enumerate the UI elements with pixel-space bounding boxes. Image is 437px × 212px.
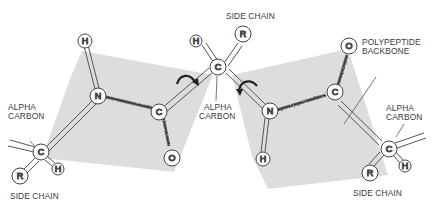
atom-n-right: N: [262, 103, 278, 119]
svg-text:R: R: [17, 171, 24, 181]
svg-text:C: C: [156, 107, 163, 117]
atom-h-left-n: H: [78, 34, 92, 48]
side-chain-right-label: SIDE CHAIN: [353, 188, 402, 198]
svg-text:O: O: [345, 41, 352, 51]
svg-text:O: O: [168, 153, 175, 163]
atom-r-left: R: [12, 168, 28, 184]
svg-text:C: C: [332, 87, 339, 97]
alpha-carbon-left-label-2: CARBON: [8, 111, 44, 121]
svg-text:N: N: [267, 106, 274, 116]
side-chain-top-label: SIDE CHAIN: [226, 11, 275, 21]
atom-o-right: O: [341, 38, 357, 54]
svg-text:C: C: [386, 144, 393, 154]
atom-h-ca-right: H: [399, 160, 411, 172]
atom-o-left: O: [164, 150, 180, 166]
atom-h-ca-left: H: [52, 163, 64, 175]
svg-text:N: N: [95, 91, 102, 101]
svg-text:H: H: [193, 36, 200, 46]
atom-h-right-n: H: [256, 152, 270, 166]
svg-text:R: R: [367, 168, 374, 178]
atom-c-right: C: [327, 84, 343, 100]
atom-ca-right: C: [381, 141, 397, 157]
side-chain-left-label: SIDE CHAIN: [10, 191, 59, 201]
left-amide-plane: [42, 51, 213, 172]
svg-text:H: H: [55, 164, 62, 174]
atom-ca-center: C: [210, 59, 226, 75]
atom-n-left: N: [90, 88, 106, 104]
atom-ca-left: C: [33, 144, 49, 160]
svg-text:R: R: [240, 29, 247, 39]
atom-r-right: R: [362, 165, 378, 181]
atom-h-center: H: [190, 35, 202, 47]
svg-text:C: C: [215, 62, 222, 72]
atom-r-center: R: [235, 26, 251, 42]
svg-text:H: H: [402, 161, 409, 171]
alpha-carbon-right-label-2: CARBON: [386, 112, 422, 122]
alpha-carbon-center-label-2: CARBON: [199, 111, 235, 121]
atom-c-left: C: [151, 104, 167, 120]
svg-text:H: H: [82, 36, 89, 46]
svg-text:H: H: [260, 154, 267, 164]
polypeptide-backbone-label-2: BACKBONE: [362, 46, 409, 56]
svg-text:C: C: [38, 147, 45, 157]
